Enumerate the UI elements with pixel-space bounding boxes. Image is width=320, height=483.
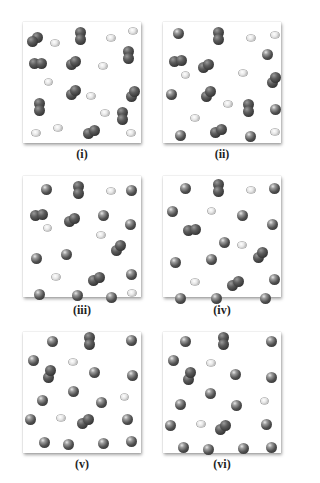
dark-atom [115, 240, 126, 251]
dark-atom [216, 124, 227, 135]
dark-atom [69, 213, 80, 224]
panel-label-iii: (iii) [23, 303, 141, 318]
dark-atom [89, 125, 100, 136]
dark-atom [180, 336, 191, 347]
dark-atom [206, 254, 217, 265]
dark-atom [218, 339, 229, 350]
dark-atom [34, 289, 45, 300]
dark-atom [73, 188, 84, 199]
light-molecule [207, 360, 215, 366]
dark-atom [126, 436, 137, 447]
dark-atom [83, 414, 94, 425]
dark-atom [266, 442, 277, 453]
dark-atom [237, 210, 248, 221]
dark-atom [36, 58, 47, 69]
light-molecule [247, 35, 255, 41]
light-molecule [57, 415, 65, 421]
dark-atom [230, 369, 241, 380]
dark-atom [213, 34, 224, 45]
dark-atom [238, 443, 249, 454]
dark-atom [28, 355, 39, 366]
light-molecule [191, 279, 199, 285]
dark-atom [167, 206, 178, 217]
dark-atom [94, 272, 105, 283]
dark-atom [70, 85, 81, 96]
dark-atom [176, 55, 187, 66]
light-molecule [224, 101, 232, 107]
dark-atom [205, 86, 216, 97]
panel-ii [163, 22, 281, 143]
dark-atom [190, 224, 201, 235]
dark-atom [233, 276, 244, 287]
dark-atom [245, 131, 256, 142]
dark-atom [31, 253, 42, 264]
light-molecule [97, 232, 105, 238]
dark-atom [203, 444, 214, 455]
light-molecule [107, 188, 115, 194]
dark-atom [269, 183, 280, 194]
light-molecule [45, 79, 52, 85]
dark-atom [170, 257, 181, 268]
light-molecule [52, 274, 60, 280]
light-molecule [238, 242, 246, 248]
dark-atom [205, 388, 216, 399]
dark-atom [68, 386, 79, 397]
dark-atom [165, 420, 176, 431]
dark-atom [243, 106, 254, 117]
light-molecule [191, 115, 199, 121]
light-molecule [239, 70, 247, 76]
light-molecule [271, 32, 279, 38]
panel-label-ii: (ii) [163, 147, 281, 162]
panel-label-vi: (vi) [163, 457, 281, 472]
dark-atom [39, 437, 50, 448]
panel-label-iv: (iv) [163, 303, 281, 318]
light-molecule [128, 290, 136, 296]
light-molecule [44, 225, 51, 231]
panel-i [23, 22, 141, 143]
dark-atom [122, 414, 133, 425]
dark-atom [47, 336, 58, 347]
dark-atom [126, 185, 137, 196]
dark-atom [175, 399, 186, 410]
dark-atom [98, 210, 109, 221]
dark-atom [231, 400, 242, 411]
dark-atom [219, 237, 230, 248]
dark-atom [125, 219, 136, 230]
light-molecule [54, 125, 62, 131]
light-molecule [51, 40, 59, 46]
dark-atom [37, 209, 48, 220]
panel-v [23, 332, 141, 453]
dark-atom [126, 269, 137, 280]
dark-atom [126, 335, 137, 346]
dark-atom [166, 89, 177, 100]
light-molecule [129, 28, 137, 34]
panel-vi [163, 332, 281, 453]
dark-atom [98, 438, 109, 449]
light-molecule [32, 130, 40, 136]
dark-atom [89, 367, 100, 378]
dark-atom [41, 184, 52, 195]
light-molecule [69, 359, 77, 365]
dark-atom [175, 130, 186, 141]
light-molecule [107, 35, 115, 41]
dark-atom [84, 339, 95, 350]
panel-iii [23, 176, 141, 297]
dark-atom [269, 274, 280, 285]
light-molecule [182, 72, 189, 78]
dark-atom [266, 336, 277, 347]
dark-atom [63, 439, 74, 450]
dark-atom [220, 420, 231, 431]
light-molecule [121, 394, 128, 400]
dark-atom [185, 367, 196, 378]
dark-atom [72, 290, 83, 301]
dark-atom [37, 395, 48, 406]
light-molecule [101, 110, 109, 116]
dark-atom [180, 183, 191, 194]
light-molecule [127, 130, 135, 136]
dark-atom [267, 219, 278, 230]
dark-atom [257, 247, 268, 258]
dark-atom [75, 34, 86, 45]
panel-label-v: (v) [23, 457, 141, 472]
dark-atom [127, 370, 138, 381]
dark-atom [61, 249, 72, 260]
